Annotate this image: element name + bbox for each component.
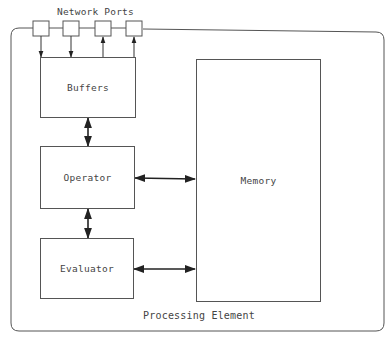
network-port-3 <box>95 21 111 36</box>
operator-memory-arrow <box>135 178 195 179</box>
memory-label: Memory <box>240 175 276 186</box>
network-port-4 <box>126 21 142 36</box>
processing-element-label: Processing Element <box>143 310 255 321</box>
evaluator-block: Evaluator <box>40 238 134 299</box>
buffers-block: Buffers <box>40 57 136 118</box>
network-port-1 <box>33 21 49 36</box>
network-ports-label: Network Ports <box>57 6 134 17</box>
buffers-label: Buffers <box>67 82 109 93</box>
operator-label: Operator <box>63 172 111 183</box>
memory-block: Memory <box>196 59 321 302</box>
evaluator-label: Evaluator <box>60 263 114 274</box>
network-port-2 <box>63 21 79 36</box>
port-arrows <box>41 36 134 58</box>
operator-block: Operator <box>40 146 135 209</box>
